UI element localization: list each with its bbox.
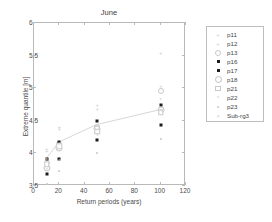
- y-tick: [182, 87, 185, 88]
- filled-square-icon: [210, 66, 226, 75]
- legend-item-p18[interactable]: p18: [210, 75, 261, 84]
- x-tick: [84, 182, 85, 185]
- legend-item-label: p18: [226, 76, 237, 83]
- x-tick-label: 100: [154, 187, 165, 194]
- chart-title: June: [33, 8, 185, 17]
- x-icon: ×: [210, 111, 226, 120]
- legend-item-p12[interactable]: +p12: [210, 39, 261, 48]
- x-tick: [84, 22, 85, 25]
- legend-item-p21[interactable]: p21: [210, 84, 261, 93]
- x-tick-label: 20: [55, 187, 62, 194]
- plot-area: ++++++++****××××: [33, 22, 185, 185]
- legend-item-label: Sub-rg3: [226, 112, 249, 119]
- x-axis-title: Return periods (years): [33, 198, 185, 205]
- legend-item-p16[interactable]: p16: [210, 57, 261, 66]
- x-tick: [109, 182, 110, 185]
- x-tick: [58, 182, 59, 185]
- y-tick: [182, 152, 185, 153]
- legend-item-label: p22: [226, 94, 237, 101]
- legend-item-label: p16: [226, 58, 237, 65]
- legend-item-p23[interactable]: p23: [210, 102, 261, 111]
- y-axis-title: Extreme quantile [m]: [22, 47, 29, 167]
- y-tick: [33, 152, 36, 153]
- legend-item-p22[interactable]: *p22: [210, 93, 261, 102]
- legend-item-label: p21: [226, 85, 237, 92]
- x-tick: [185, 22, 186, 25]
- legend-item-sub-rg3[interactable]: ×Sub-rg3: [210, 111, 261, 120]
- y-tick: [33, 87, 36, 88]
- x-tick-label: 40: [80, 187, 87, 194]
- y-tick: [182, 22, 185, 23]
- y-tick: [182, 185, 185, 186]
- trend-line: [34, 23, 184, 184]
- chart-legend: +p11+p12p13p16p17p18p21*p22p23×Sub-rg3: [206, 26, 264, 122]
- legend-item-label: p13: [226, 49, 237, 56]
- x-tick: [134, 22, 135, 25]
- legend-item-label: p23: [226, 103, 237, 110]
- filled-square-icon: [210, 57, 226, 66]
- chart-figure: June ++++++++****×××× 020406080100120 3.…: [0, 0, 272, 222]
- x-tick: [109, 22, 110, 25]
- legend-item-p17[interactable]: p17: [210, 66, 261, 75]
- open-square-icon: [210, 84, 226, 93]
- y-tick: [182, 55, 185, 56]
- plus-icon: +: [210, 39, 226, 48]
- x-tick-label: 60: [105, 187, 112, 194]
- legend-item-label: p11: [226, 31, 237, 38]
- legend-item-p11[interactable]: +p11: [210, 30, 261, 39]
- x-tick: [58, 22, 59, 25]
- x-tick: [160, 22, 161, 25]
- legend-item-label: p17: [226, 67, 237, 74]
- x-tick: [160, 182, 161, 185]
- x-tick-label: 80: [131, 187, 138, 194]
- y-tick: [33, 22, 36, 23]
- x-tick: [185, 182, 186, 185]
- legend-item-p13[interactable]: p13: [210, 48, 261, 57]
- dot-icon: [210, 102, 226, 111]
- circle-icon: [210, 48, 226, 57]
- plus-icon: +: [210, 30, 226, 39]
- x-tick: [134, 182, 135, 185]
- y-tick: [182, 120, 185, 121]
- open-circle-icon: [210, 75, 226, 84]
- star-icon: *: [210, 93, 226, 102]
- axes-inner: ++++++++****××××: [34, 23, 184, 184]
- x-tick-label: 120: [180, 187, 191, 194]
- legend-item-label: p12: [226, 40, 237, 47]
